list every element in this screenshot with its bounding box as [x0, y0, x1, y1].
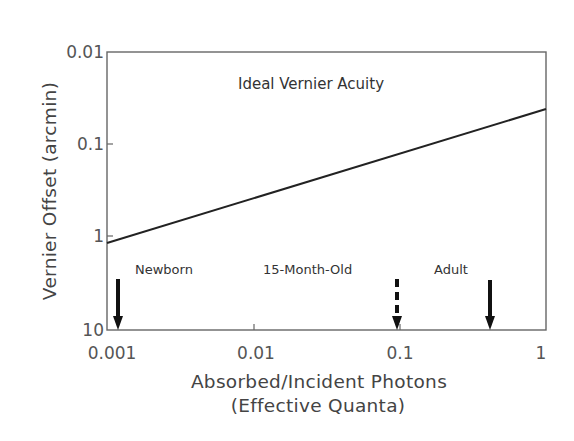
x-tick-label: 0.1 [386, 343, 413, 363]
annotation-label: 15-Month-Old [263, 262, 352, 277]
x-axis-title-line2: (Effective Quanta) [231, 395, 406, 416]
arrow-down-icon [485, 316, 495, 330]
y-tick-label: 0.1 [77, 134, 104, 154]
arrow-down-icon [113, 316, 123, 330]
annotation-adult: Adult [434, 262, 495, 330]
x-tick-label: 1 [536, 343, 547, 363]
x-tick-label: 0.001 [88, 343, 137, 363]
y-axis: 0.01 0.1 1 10 [66, 42, 113, 340]
annotation-newborn: Newborn [113, 262, 193, 330]
plot-title: Ideal Vernier Acuity [238, 75, 384, 93]
ideal-acuity-line [107, 109, 546, 243]
x-axis-title: Absorbed/Incident Photons [191, 371, 447, 392]
y-tick-label: 10 [82, 320, 104, 340]
annotation-label: Adult [434, 262, 468, 277]
annotation-label: Newborn [135, 262, 193, 277]
x-tick-label: 0.01 [237, 343, 275, 363]
plot-frame [107, 52, 546, 330]
y-tick-label: 1 [93, 226, 104, 246]
annotation-15-month-old: 15-Month-Old [263, 262, 402, 330]
y-tick-label: 0.01 [66, 42, 104, 62]
chart: 0.01 0.1 1 10 0.001 0.01 0.1 1 Absorbed/… [0, 0, 574, 441]
y-axis-title: Vernier Offset (arcmin) [39, 82, 60, 300]
